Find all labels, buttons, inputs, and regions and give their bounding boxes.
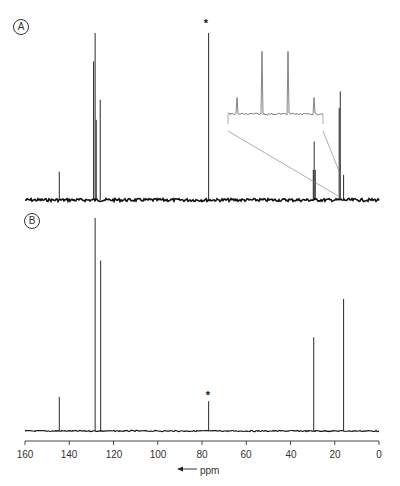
tick-label: 140 — [61, 449, 78, 460]
tick-label: 100 — [150, 449, 167, 460]
tick-label: 0 — [376, 449, 382, 460]
solvent-marker-b: * — [206, 389, 210, 401]
tick-label: 20 — [329, 449, 340, 460]
x-axis — [25, 441, 379, 445]
panel-label-b: B — [24, 213, 40, 229]
tick-label: 40 — [285, 449, 296, 460]
x-axis-unit-label: ppm — [200, 465, 219, 476]
panel-a-inset — [228, 51, 341, 196]
tick-label: 160 — [17, 449, 34, 460]
panel-a-spectrum — [25, 33, 379, 202]
solvent-marker-a: * — [204, 17, 208, 29]
nmr-spectra-plot — [0, 0, 400, 486]
tick-label: 60 — [240, 449, 251, 460]
panel-b-spectrum — [25, 218, 379, 432]
direction-arrow-icon — [177, 467, 197, 472]
panel-label-a: A — [13, 19, 29, 35]
tick-label: 80 — [196, 449, 207, 460]
nmr-figure: A B * * 160 140 120 100 80 60 40 20 0 pp… — [0, 0, 400, 486]
tick-label: 120 — [106, 449, 123, 460]
